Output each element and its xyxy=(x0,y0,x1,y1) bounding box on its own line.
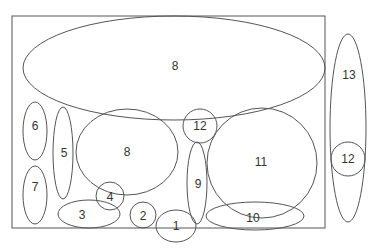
label-c12-out: 12 xyxy=(341,152,355,166)
labels-group: 86758129111043211312 xyxy=(32,59,356,233)
label-e10: 10 xyxy=(246,211,260,225)
label-e6: 6 xyxy=(32,119,39,133)
label-e3: 3 xyxy=(79,208,86,222)
ellipse-e7 xyxy=(23,166,47,224)
label-c2: 2 xyxy=(140,209,147,223)
label-c4: 4 xyxy=(107,190,114,204)
label-e13: 13 xyxy=(342,68,356,82)
label-e9: 9 xyxy=(195,177,202,191)
label-e8-top: 8 xyxy=(172,59,179,73)
label-e5: 5 xyxy=(61,146,68,160)
label-e1: 1 xyxy=(173,219,180,233)
label-e7: 7 xyxy=(32,180,39,194)
label-c11: 11 xyxy=(255,155,268,169)
ellipse-e13 xyxy=(330,34,366,222)
ellipse-e3 xyxy=(58,200,120,228)
label-c12-in: 12 xyxy=(193,119,207,133)
ellipse-diagram: 86758129111043211312 xyxy=(0,0,376,249)
label-e8-mid: 8 xyxy=(124,145,131,159)
